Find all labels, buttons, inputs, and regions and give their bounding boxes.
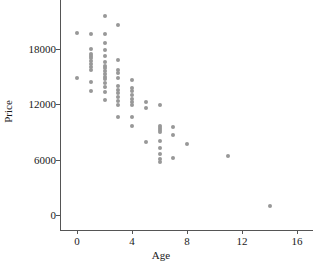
data-point xyxy=(116,115,120,119)
data-point xyxy=(158,160,162,164)
data-point xyxy=(103,48,107,52)
data-point xyxy=(268,204,272,208)
data-point xyxy=(158,146,162,150)
data-point xyxy=(103,90,107,94)
y-axis-title: Price xyxy=(3,82,14,142)
data-point xyxy=(89,68,93,72)
data-point xyxy=(130,103,134,107)
data-point xyxy=(103,54,107,58)
data-point xyxy=(185,142,189,146)
data-point xyxy=(171,156,175,160)
data-point xyxy=(116,103,120,107)
data-point xyxy=(116,58,120,62)
data-point xyxy=(158,130,162,134)
data-point xyxy=(116,76,120,80)
data-point xyxy=(75,76,79,80)
data-point xyxy=(103,14,107,18)
data-point xyxy=(130,115,134,119)
data-points-layer xyxy=(0,0,322,266)
data-point xyxy=(130,124,134,128)
data-point xyxy=(144,100,148,104)
data-point xyxy=(103,85,107,89)
data-point xyxy=(89,32,93,36)
data-point xyxy=(103,32,107,36)
data-point xyxy=(116,23,120,27)
data-point xyxy=(103,41,107,45)
data-point xyxy=(158,152,162,156)
x-axis-title: Age xyxy=(0,250,322,261)
data-point xyxy=(144,140,148,144)
data-point xyxy=(103,98,107,102)
data-point xyxy=(171,133,175,137)
scatter-plot-figure: 0481216060001200018000 Age Price xyxy=(0,0,322,266)
data-point xyxy=(226,154,230,158)
data-point xyxy=(89,80,93,84)
data-point xyxy=(75,31,79,35)
data-point xyxy=(144,106,148,110)
data-point xyxy=(89,89,93,93)
data-point xyxy=(158,103,162,107)
data-point xyxy=(130,78,134,82)
data-point xyxy=(158,139,162,143)
data-point xyxy=(171,125,175,129)
